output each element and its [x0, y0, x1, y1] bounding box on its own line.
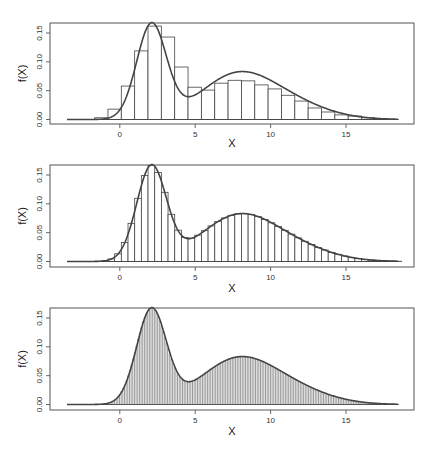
y-tick-label: 0.00: [35, 396, 44, 412]
histogram-bar: [228, 215, 235, 261]
histogram-bar: [235, 214, 242, 262]
x-tick-label: 15: [342, 416, 351, 425]
y-tick-label: 0.00: [35, 253, 44, 269]
y-tick-label: 0.15: [35, 310, 44, 326]
histogram-bar: [295, 101, 308, 119]
histogram-panel-coarse: 0.000.050.100.15 051015 f(X) X: [16, 23, 414, 149]
histogram-bar: [281, 95, 294, 119]
histogram-bar: [268, 223, 275, 262]
y-tick-label: 0.15: [35, 167, 44, 183]
histogram-bar: [148, 165, 155, 261]
histogram-bars: [67, 308, 399, 405]
x-tick-label: 10: [266, 416, 275, 425]
histogram-bar: [228, 80, 241, 119]
y-tick-label: 0.05: [35, 224, 44, 240]
y-axis: 0.000.050.100.15: [35, 310, 50, 413]
histogram-bar: [308, 108, 321, 120]
y-axis-label: f(X): [16, 65, 28, 83]
histogram-bar: [201, 231, 208, 262]
x-tick-label: 5: [193, 130, 198, 139]
y-tick-label: 0.15: [35, 25, 44, 41]
histogram-bar: [241, 214, 248, 262]
histogram-panel-fine: 0.000.050.100.15 051015 f(X) X: [16, 308, 414, 437]
x-tick-label: 10: [266, 273, 275, 282]
histogram-bar: [308, 245, 315, 262]
histogram-bar: [215, 222, 222, 262]
histogram-bar: [215, 83, 228, 119]
y-tick-label: 0.05: [35, 82, 44, 98]
x-tick-label: 0: [118, 416, 123, 425]
histogram-bars: [67, 165, 402, 261]
x-axis-label: X: [228, 137, 236, 149]
y-tick-label: 0.10: [35, 196, 44, 212]
histogram-bar: [335, 115, 348, 120]
histogram-bar: [208, 226, 215, 262]
x-tick-label: 5: [193, 416, 198, 425]
histogram-panel-medium: 0.000.050.100.15 051015 f(X) X: [16, 165, 414, 294]
histogram-bar: [255, 217, 262, 262]
histogram-bar: [141, 176, 148, 262]
x-tick-label: 0: [118, 130, 123, 139]
histogram-bar: [255, 85, 268, 120]
y-tick-label: 0.10: [35, 339, 44, 355]
histogram-bar: [188, 238, 195, 261]
histogram-bar: [201, 90, 214, 119]
y-tick-label: 0.05: [35, 367, 44, 383]
y-axis: 0.000.050.100.15: [35, 167, 50, 270]
y-axis: 0.000.050.100.15: [35, 25, 50, 128]
x-tick-label: 15: [342, 130, 351, 139]
x-axis: 051015: [118, 267, 351, 282]
x-tick-label: 15: [342, 273, 351, 282]
histogram-bar: [181, 237, 188, 261]
histogram-bar: [322, 250, 329, 261]
x-axis-label: X: [228, 425, 236, 437]
x-tick-label: 10: [266, 130, 275, 139]
histogram-bar: [195, 235, 202, 261]
histogram-bar: [288, 234, 295, 261]
y-tick-label: 0.00: [35, 111, 44, 127]
histogram-bar: [315, 247, 322, 261]
y-axis-label: f(X): [16, 350, 28, 368]
histogram-bar: [121, 243, 128, 262]
histogram-bar: [295, 238, 302, 262]
histogram-bar: [321, 112, 334, 119]
histogram-bar: [302, 241, 309, 261]
histogram-bar: [148, 26, 161, 119]
figure: 0.000.050.100.15 051015 f(X) X 0.000.050…: [0, 0, 431, 451]
histogram-bar: [268, 89, 281, 120]
histogram-bar: [155, 173, 162, 262]
histogram-bar: [261, 219, 268, 261]
histogram-bar: [248, 215, 255, 262]
x-axis: 051015: [118, 410, 351, 425]
x-axis-label: X: [228, 282, 236, 294]
histogram-bar: [221, 218, 228, 262]
histogram-bar: [281, 230, 288, 261]
histogram-bar: [241, 81, 254, 120]
y-tick-label: 0.10: [35, 54, 44, 70]
x-tick-label: 0: [118, 273, 123, 282]
x-tick-label: 5: [193, 273, 198, 282]
histogram-bar: [275, 226, 282, 261]
y-axis-label: f(X): [16, 207, 28, 225]
